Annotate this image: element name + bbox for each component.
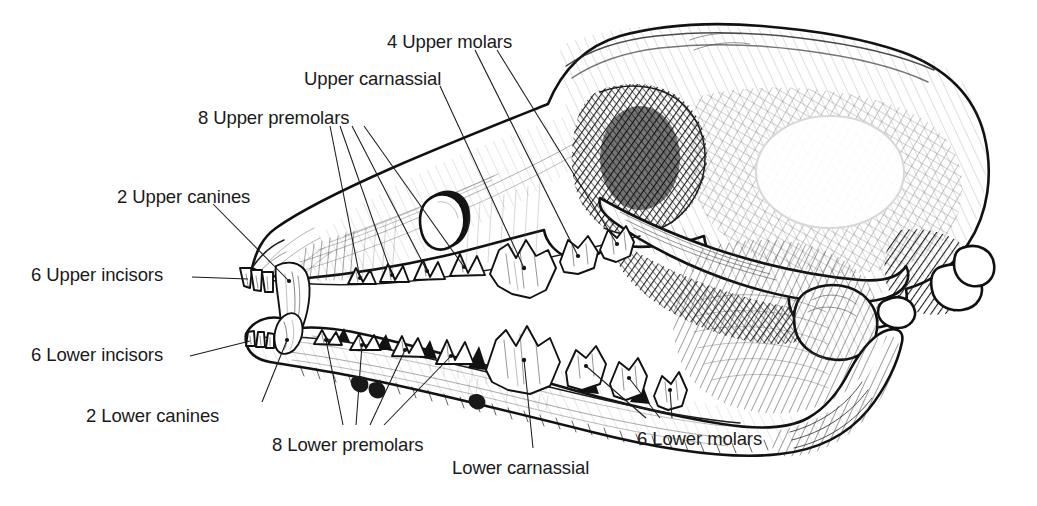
label-upper-molars: 4 Upper molars — [387, 33, 512, 52]
lower-carnassial-tooth — [486, 326, 560, 394]
label-lower-incisors: 6 Lower incisors — [31, 346, 163, 365]
label-upper-canines: 2 Upper canines — [117, 188, 250, 207]
label-upper-incisors: 6 Upper incisors — [31, 266, 163, 285]
upper-carnassial-tooth — [490, 240, 556, 298]
upper-incisors-group — [240, 268, 273, 292]
lower-incisors-group — [246, 331, 274, 348]
label-lower-carnassial: Lower carnassial — [452, 459, 589, 478]
skull-illustration — [0, 0, 1037, 506]
label-upper-carnassial: Upper carnassial — [304, 70, 441, 89]
skull-dentition-figure: 4 Upper molars Upper carnassial 8 Upper … — [0, 0, 1037, 506]
label-lower-molars: 6 Lower molars — [637, 430, 762, 449]
label-lower-premolars: 8 Lower premolars — [272, 436, 424, 455]
label-lower-canines: 2 Lower canines — [86, 407, 219, 426]
label-upper-premolars: 8 Upper premolars — [198, 109, 350, 128]
